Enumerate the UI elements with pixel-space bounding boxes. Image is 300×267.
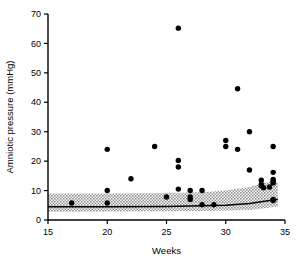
data-point: [223, 138, 228, 143]
data-point: [223, 144, 228, 149]
data-points-layer: [69, 25, 276, 207]
y-axis-tick-label: 10: [31, 186, 41, 196]
data-point: [247, 167, 252, 172]
data-point: [270, 144, 275, 149]
data-point: [105, 147, 110, 152]
data-point: [176, 186, 181, 191]
y-axis-tick-label: 40: [31, 97, 41, 107]
data-point: [188, 197, 193, 202]
data-point: [270, 170, 275, 175]
x-axis-tick-label: 35: [280, 227, 290, 237]
data-point: [105, 200, 110, 205]
data-point: [176, 158, 181, 163]
y-axis-tick-label: 30: [31, 127, 41, 137]
data-point: [199, 188, 204, 193]
data-point: [199, 202, 204, 207]
x-axis-tick-label: 20: [102, 227, 112, 237]
x-axis: 1520253035: [43, 220, 290, 237]
y-axis-title: Amniotic pressure (mmHg): [4, 61, 15, 174]
data-point: [176, 164, 181, 169]
x-axis-tick-label: 25: [161, 227, 171, 237]
y-axis-tick-label: 60: [31, 39, 41, 49]
data-point: [105, 188, 110, 193]
data-point: [164, 194, 169, 199]
data-point: [69, 200, 74, 205]
data-point: [267, 184, 272, 189]
x-axis-tick-label: 15: [43, 227, 53, 237]
data-point: [270, 180, 275, 185]
data-point: [261, 185, 266, 190]
data-point: [176, 25, 181, 30]
data-point: [270, 198, 275, 203]
scatter-plot-figure: 010203040506070 1520253035 Weeks Amnioti…: [0, 0, 300, 267]
data-point: [128, 176, 133, 181]
data-point: [247, 129, 252, 134]
y-axis: 010203040506070: [31, 9, 48, 225]
x-axis-tick-label: 30: [221, 227, 231, 237]
y-axis-tick-label: 0: [36, 215, 41, 225]
amniotic-pressure-scatter-chart: 010203040506070 1520253035 Weeks Amnioti…: [0, 0, 300, 267]
y-axis-tick-label: 20: [31, 156, 41, 166]
x-axis-title: Weeks: [152, 245, 181, 256]
y-axis-tick-label: 70: [31, 9, 41, 19]
data-point: [235, 147, 240, 152]
y-axis-tick-label: 50: [31, 68, 41, 78]
data-point: [211, 202, 216, 207]
data-point: [235, 86, 240, 91]
data-point: [188, 188, 193, 193]
data-point: [152, 144, 157, 149]
